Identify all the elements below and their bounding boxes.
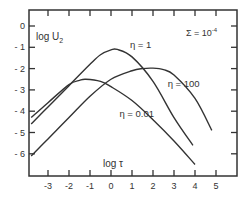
- sigma-annotation: Σ = 10-4: [186, 27, 218, 38]
- curve-labels: η = 1η = 100η = 0.01: [119, 39, 199, 118]
- x-tick-label: 0: [108, 181, 113, 191]
- y-tick-label: - 5: [14, 128, 25, 138]
- y-tick-label: - 3: [14, 85, 25, 95]
- x-tick-label: 1: [129, 181, 134, 191]
- x-tick-label: 2: [150, 181, 155, 191]
- y-tick-label: 0: [20, 21, 25, 31]
- x-tick-label: 5: [213, 181, 218, 191]
- x-axis-label: log τ: [103, 158, 123, 169]
- y-tick-label: - 6: [14, 149, 25, 159]
- curve-0.01: [31, 79, 195, 164]
- x-tick-label: 4: [192, 181, 197, 191]
- chart: -3-2-1012345 0- 1- 2- 3- 4- 5- 6 η = 1η …: [0, 0, 251, 199]
- x-tick-label: -3: [44, 181, 52, 191]
- y-tick-label: - 4: [14, 106, 25, 116]
- x-tick-label: -2: [65, 181, 73, 191]
- curve-label: η = 0.01: [119, 108, 154, 119]
- x-tick-label: 3: [171, 181, 176, 191]
- curve-label: η = 100: [168, 78, 200, 89]
- curve-label: η = 1: [130, 39, 151, 50]
- y-tick-label: - 1: [14, 42, 25, 52]
- x-tick-label: -1: [86, 181, 94, 191]
- y-tick-label: - 2: [14, 64, 25, 74]
- y-axis-label: log U2: [36, 31, 63, 44]
